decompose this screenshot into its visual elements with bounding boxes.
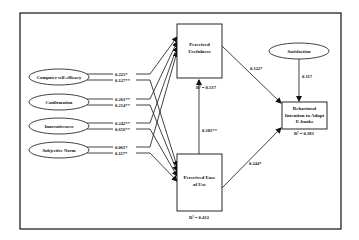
coef-peou-pu: 0.181** bbox=[202, 128, 218, 133]
coef-peou-bi: 0.244* bbox=[249, 161, 262, 166]
box-behavioral-intention: Behavioral Intention to Adopt E-books bbox=[282, 102, 327, 129]
oval-label: Subjective Norm bbox=[42, 148, 75, 153]
box-perceived-usefulness: Perceived Usefulness bbox=[177, 24, 222, 78]
satisfaction-label: Satisfaction bbox=[288, 49, 311, 54]
oval-subjective-norm: Subjective Norm bbox=[29, 142, 89, 158]
oval-satisfaction: Satisfaction bbox=[269, 43, 329, 59]
peou-r2: R² = 0.432 bbox=[189, 215, 210, 220]
coef-sn-peou: 0.117* bbox=[115, 151, 128, 156]
peou-label-1: Perceived Ease bbox=[184, 175, 217, 180]
coef-cse-pu: 0.225* bbox=[115, 72, 128, 77]
bi-r2: R² = 0.381 bbox=[294, 131, 315, 136]
pu-label-2: Usefulness bbox=[188, 49, 211, 54]
peou-label-2: of Use bbox=[193, 182, 207, 187]
coef-conf-pu: 0.261** bbox=[115, 97, 131, 102]
bi-label-2: Intention to Adopt bbox=[285, 113, 325, 118]
coef-sn-pu: 0.061* bbox=[115, 145, 128, 150]
coef-pu-bi: 0.122* bbox=[250, 66, 263, 71]
coef-innov-peou: 0.656** bbox=[115, 127, 131, 132]
coef-sat-bi: 0.117 bbox=[302, 74, 313, 79]
path-peou-bi bbox=[222, 128, 281, 188]
bi-label-1: Behavioral bbox=[293, 106, 317, 111]
box-perceived-ease-of-use: Perceived Ease of Use bbox=[177, 154, 222, 211]
bi-label-3: E-books bbox=[296, 119, 314, 124]
oval-label: Computer self-efficacy bbox=[37, 75, 82, 80]
oval-label: Innovativeness bbox=[44, 124, 73, 129]
pu-label-1: Perceived bbox=[189, 42, 210, 47]
oval-label: Confirmation bbox=[46, 100, 73, 105]
coef-conf-peou: 0.214** bbox=[115, 103, 131, 108]
path-diagram: Computer self-efficacy Confirmation Inno… bbox=[0, 0, 359, 240]
coef-cse-peou: 0.127** bbox=[115, 78, 131, 83]
coef-innov-pu: 0.242** bbox=[115, 121, 131, 126]
oval-confirmation: Confirmation bbox=[29, 94, 89, 110]
oval-computer-self-efficacy: Computer self-efficacy bbox=[29, 69, 89, 85]
exogenous-paths bbox=[87, 37, 177, 181]
oval-innovativeness: Innovativeness bbox=[29, 118, 89, 134]
